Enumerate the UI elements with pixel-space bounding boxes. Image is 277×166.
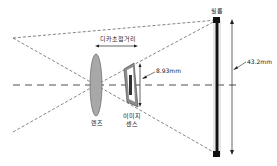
focal-length-label: 디카초점거리 xyxy=(100,36,136,42)
leader-arrowhead-icon xyxy=(233,66,238,70)
ray-to-film-bottom xyxy=(96,85,217,154)
ray-upper-left xyxy=(13,38,96,85)
ray-to-film-top xyxy=(96,20,217,85)
film-bar xyxy=(216,22,219,153)
image-sensor-label-line2: 센스 xyxy=(126,121,138,127)
lens-label: 렌즈 xyxy=(91,120,103,126)
arrowhead-left-icon xyxy=(95,45,99,48)
lens-shape xyxy=(90,54,102,116)
arrowhead-down-icon xyxy=(139,103,142,107)
sensor-size-label: 8.93mm xyxy=(156,68,181,74)
ray-lower-left xyxy=(13,85,96,132)
film-bottom-block xyxy=(213,151,220,157)
arrowhead-up-icon xyxy=(139,63,142,67)
image-sensor-core xyxy=(129,75,132,95)
arrowhead-down-icon xyxy=(230,150,234,155)
leader-arrowhead-icon xyxy=(142,76,147,80)
film-size-label: 43.2mm xyxy=(247,59,272,65)
image-sensor-label-line1: 이미지 xyxy=(123,113,141,119)
film-label: 필름 xyxy=(211,8,223,14)
arrowhead-right-icon xyxy=(134,45,138,48)
film-top-block xyxy=(213,17,220,23)
camera-optics-diagram xyxy=(0,0,277,166)
arrowhead-up-icon xyxy=(230,19,234,24)
